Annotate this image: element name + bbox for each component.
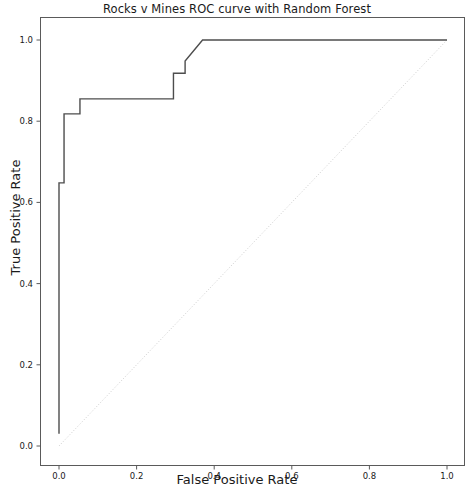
plot-canvas: 0.00.20.40.60.81.0 0.00.20.40.60.81.0 (0, 0, 474, 497)
y-axis-label: True Positive Rate (8, 108, 23, 328)
y-axis-ticks: 0.00.20.40.60.81.0 (19, 35, 40, 451)
y-tick-label: 1.0 (19, 35, 33, 45)
y-tick-label: 0.0 (19, 441, 33, 451)
roc-chart-figure: Rocks v Mines ROC curve with Random Fore… (0, 0, 474, 497)
plot-frame (41, 18, 465, 466)
y-tick-label: 0.2 (19, 360, 33, 370)
x-axis-label: False Positive Rate (0, 472, 474, 487)
